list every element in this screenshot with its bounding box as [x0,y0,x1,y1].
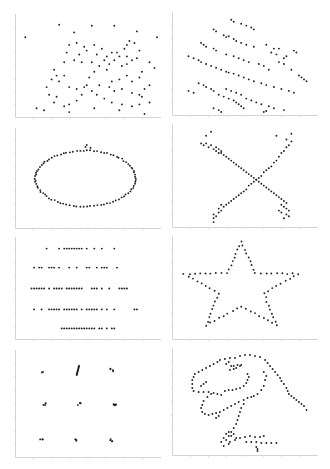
scatter-panel-dino [172,348,318,456]
scatter-panel-h-lines [15,237,161,340]
axis-lines [173,348,319,456]
axis-lines [173,12,319,116]
axis-lines [16,350,162,458]
scatter-panel-slant-down [172,12,318,116]
data-points [24,24,158,115]
data-points [39,365,117,442]
axis-lines [16,14,162,118]
scatter-panel-bullseye-grid [15,350,161,458]
axis-lines [16,128,162,229]
axis-lines [173,236,319,340]
scatter-panel-x-shape [172,124,318,228]
data-points [34,144,137,208]
data-points [31,248,138,330]
data-points [191,354,307,452]
data-points [188,19,308,113]
data-points [200,131,292,223]
data-points [182,241,299,327]
axis-lines [173,124,319,228]
scatter-panel-dots [15,14,161,118]
scatter-panel-star [172,236,318,340]
scatter-panel-circle [15,128,161,229]
